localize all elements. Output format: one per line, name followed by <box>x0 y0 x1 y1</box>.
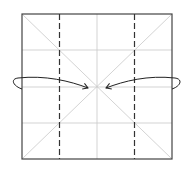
fold-diagram <box>0 0 189 171</box>
crease-lines <box>22 14 172 159</box>
